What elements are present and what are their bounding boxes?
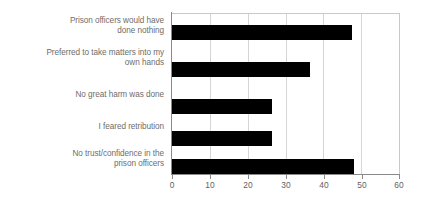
tick-mark-0 <box>172 175 173 179</box>
x-tick-label: 40 <box>319 180 328 190</box>
tick-mark-20 <box>248 175 249 179</box>
y-axis-line <box>171 12 172 175</box>
x-tick-label: 20 <box>243 180 252 190</box>
bar-no-great-harm-was-done <box>172 99 272 114</box>
tick-mark-50 <box>362 175 363 179</box>
x-tick-label: 50 <box>357 180 366 190</box>
category-label: I feared retribution <box>99 122 164 132</box>
category-label: Prison officers would have done nothing <box>70 16 164 35</box>
x-tick-label: 10 <box>205 180 214 190</box>
category-label: No trust/confidence in the prison office… <box>72 149 164 168</box>
tick-mark-10 <box>210 175 211 179</box>
horizontal-bar-chart: Prison officers would have done nothing … <box>0 0 423 201</box>
tick-mark-40 <box>324 175 325 179</box>
category-label: Preferred to take matters into my own ha… <box>46 48 164 67</box>
plot-area <box>172 13 400 175</box>
bar-no-trust-confidence-in-the-prison-officers <box>172 159 354 174</box>
category-axis-labels: Prison officers would have done nothing … <box>0 0 168 175</box>
gridline-50 <box>361 14 362 175</box>
bar-preferred-to-take-matters-into-my-own-hands <box>172 62 310 77</box>
category-label: No great harm was done <box>75 90 164 100</box>
tick-mark-60 <box>399 175 400 179</box>
x-tick-label: 60 <box>394 180 403 190</box>
bar-i-feared-retribution <box>172 131 272 146</box>
x-tick-label: 0 <box>170 180 175 190</box>
tick-mark-30 <box>286 175 287 179</box>
bar-prison-officers-would-have-done-nothing <box>172 25 352 40</box>
x-tick-label: 30 <box>281 180 290 190</box>
